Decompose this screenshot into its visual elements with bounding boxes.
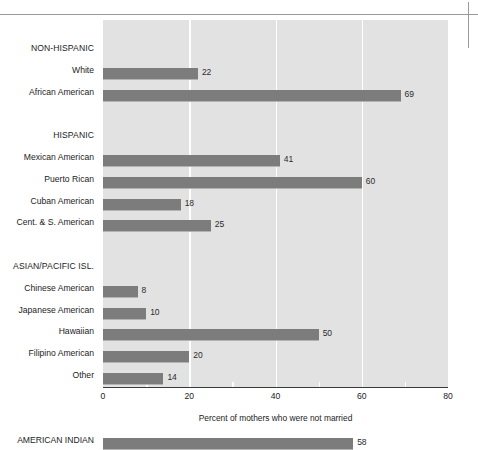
x-tick-80: 80 [443,391,453,401]
x-axis-tick-labels: 020406080 [103,391,448,405]
category-label: White [72,60,94,82]
bar-value-label: 10 [150,306,159,318]
category-axis-labels: NON-HISPANICWhiteAfrican AmericanHISPANI… [0,20,100,388]
plot-area: 22694160182581050201458 [103,20,448,388]
x-axis-title: Percent of mothers who were not married [103,413,448,423]
bar-row: 60 [103,173,448,195]
bar [103,155,280,167]
bar [103,90,401,102]
bar-row: 14 [103,369,448,391]
bar [103,438,353,450]
category-label: Hawaiian [59,321,94,343]
bar-value-label: 18 [185,197,194,209]
bar-value-label: 69 [405,88,414,100]
bar-row: 58 [103,434,448,450]
category-label: Filipino American [29,343,94,365]
bar-value-label: 22 [202,66,211,78]
category-label: HISPANIC [53,125,94,147]
category-label: African American [29,82,94,104]
bar-row: 50 [103,325,448,347]
category-label: ASIAN/PACIFIC ISL. [13,256,94,278]
category-label: Puerto Rican [44,169,94,191]
bar-row: 22 [103,64,448,86]
bar-value-label: 50 [323,327,332,339]
bar-value-label: 14 [167,371,176,383]
bar-value-label: 41 [284,153,293,165]
x-tick-0: 0 [101,391,106,401]
bar-row: 20 [103,347,448,369]
bar [103,68,198,80]
bar [103,177,362,189]
bar-value-label: 20 [193,349,202,361]
bar [103,308,146,320]
bar-value-label: 25 [215,218,224,230]
x-tick-40: 40 [271,391,281,401]
bar [103,220,211,232]
bar-row: 69 [103,86,448,108]
bar-row: 25 [103,216,448,238]
bar-row: 41 [103,151,448,173]
bar-row: 18 [103,195,448,217]
category-label: Cuban American [30,191,94,213]
bar [103,286,138,298]
category-label: Japanese American [19,300,94,322]
category-label: Cent. & S. American [17,212,94,234]
x-tick-20: 20 [184,391,194,401]
bar-chart-figure: NON-HISPANICWhiteAfrican AmericanHISPANI… [0,0,478,450]
bar-value-label: 60 [366,175,375,187]
category-label: NON-HISPANIC [31,38,94,60]
category-label: Other [73,365,95,387]
category-label: Chinese American [24,278,94,300]
bar [103,373,163,385]
x-tick-60: 60 [357,391,367,401]
bar-row: 10 [103,304,448,326]
bar-value-label: 58 [357,436,366,448]
category-label: AMERICAN INDIAN [17,430,94,450]
bar-row: 8 [103,282,448,304]
bar [103,199,181,211]
bar [103,351,189,363]
bar [103,329,319,341]
bar-value-label: 8 [142,284,147,296]
bar-rows: 22694160182581050201458 [103,20,448,387]
category-label: Mexican American [24,147,94,169]
